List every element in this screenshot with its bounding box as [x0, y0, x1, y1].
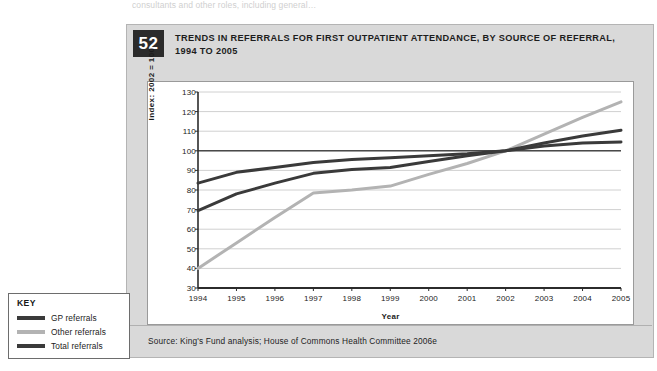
x-axis-tick: 1997 [304, 294, 323, 303]
x-axis-tick: 2005 [612, 294, 631, 303]
legend-swatch-icon [17, 330, 45, 334]
figure-title: TRENDS IN REFERRALS FOR FIRST OUTPATIENT… [175, 32, 630, 58]
x-axis-label: Year [148, 312, 633, 321]
legend-label: Total referrals [51, 341, 103, 351]
legend-title: KEY [17, 298, 129, 308]
source-text: Source: King's Fund analysis; House of C… [148, 336, 437, 346]
legend-label: GP referrals [51, 313, 97, 323]
x-axis-tick: 1996 [266, 294, 285, 303]
x-axis-tick: 1999 [381, 294, 400, 303]
chart-plot-card: Index: 2002 = 100 3040506070809010011012… [147, 81, 634, 325]
series-line-total-referrals [198, 142, 621, 183]
legend-swatch-icon [17, 344, 45, 348]
legend-item: GP referrals [17, 311, 129, 325]
x-axis-tick: 2003 [535, 294, 554, 303]
cut-off-body-text: consultants and other roles, including g… [132, 0, 462, 11]
legend-item: Other referrals [17, 325, 129, 339]
x-axis-tick: 1994 [189, 294, 208, 303]
legend-items: GP referralsOther referralsTotal referra… [17, 311, 129, 353]
x-axis-tick: 2002 [496, 294, 515, 303]
figure-panel: 52 TRENDS IN REFERRALS FOR FIRST OUTPATI… [126, 24, 654, 358]
legend-label: Other referrals [51, 327, 106, 337]
chart-area: Index: 2002 = 100 3040506070809010011012… [148, 82, 633, 324]
source-bar: Source: King's Fund analysis; House of C… [128, 325, 652, 356]
legend-swatch-icon [17, 316, 45, 320]
series-line-other-referrals [198, 102, 621, 269]
legend-item: Total referrals [17, 339, 129, 353]
x-axis-tick: 1995 [227, 294, 246, 303]
x-axis-tick: 2001 [458, 294, 477, 303]
chart-lines-svg [148, 82, 635, 326]
x-axis-ticks: 1994199519961997199819992000200120022003… [148, 294, 633, 308]
x-axis-tick: 1998 [343, 294, 362, 303]
x-axis-tick: 2000 [419, 294, 438, 303]
legend-key-box: KEY GP referralsOther referralsTotal ref… [8, 293, 130, 359]
x-axis-tick: 2004 [573, 294, 592, 303]
figure-header: 52 TRENDS IN REFERRALS FOR FIRST OUTPATI… [127, 25, 653, 65]
